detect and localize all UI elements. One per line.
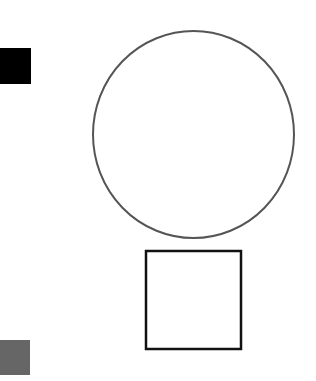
black-square [0, 48, 31, 84]
gray-square [0, 340, 30, 375]
diagram-canvas [0, 0, 316, 381]
outlined-circle [93, 31, 294, 238]
shape-layer [0, 0, 316, 381]
outlined-square [146, 251, 241, 349]
